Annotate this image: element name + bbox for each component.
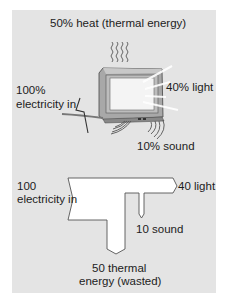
sankey-input-label: electricity in bbox=[17, 193, 77, 206]
sankey-sound-output: 10 sound bbox=[136, 223, 183, 236]
sankey-input-value: 100 bbox=[17, 180, 36, 193]
electricity-in-label: electricity in bbox=[16, 98, 76, 111]
sankey-light-output: 40 light bbox=[178, 180, 215, 193]
sankey-flow-shape bbox=[68, 178, 177, 254]
heat-label: 50% heat (thermal energy) bbox=[50, 17, 186, 30]
sound-waves-icon bbox=[111, 120, 164, 139]
sound-label: 10% sound bbox=[137, 140, 195, 153]
light-label: 40% light bbox=[166, 81, 213, 94]
electricity-in-percent: 100% bbox=[16, 84, 45, 97]
sankey-thermal-output-value: 50 thermal bbox=[92, 262, 146, 275]
heat-waves-icon bbox=[111, 42, 128, 62]
sankey-thermal-output-label: energy (wasted) bbox=[79, 275, 161, 288]
